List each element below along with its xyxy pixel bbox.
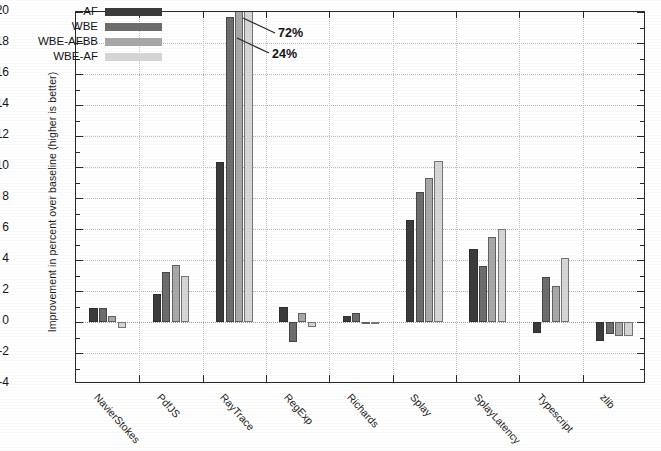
bar-chart: Improvement in percent over baseline (hi… [0,0,661,451]
annotation-leader-lines [0,0,661,451]
